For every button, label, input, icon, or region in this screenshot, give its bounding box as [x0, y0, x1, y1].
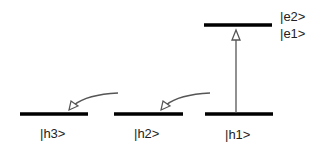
relaxation-arrow-h1-h2-icon [161, 93, 210, 110]
energy-level-diagram: |e2> |e1> |h3> |h2> |h1> [0, 0, 329, 151]
label-e2: |e2> [280, 9, 305, 24]
label-e1: |e1> [280, 26, 305, 41]
label-h1: |h1> [225, 127, 250, 142]
relaxation-arrow-h2-h3-icon [69, 93, 118, 110]
label-h3: |h3> [40, 126, 65, 141]
label-h2: |h2> [134, 126, 159, 141]
excitation-arrow-icon [232, 30, 240, 113]
